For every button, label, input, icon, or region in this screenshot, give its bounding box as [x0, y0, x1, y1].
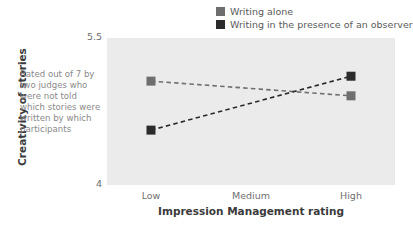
data-point-marker [347, 91, 356, 100]
x-axis-title: Impression Management rating [107, 205, 395, 217]
x-axis-tick-label-high: High [321, 190, 381, 201]
annotation-line: were not told [20, 91, 104, 102]
chart-legend: Writing alone Writing in the presence of… [216, 5, 405, 31]
annotation-line: written by which [20, 113, 104, 124]
series-line [151, 76, 351, 130]
legend-item-writing-alone[interactable]: Writing alone [216, 5, 405, 17]
annotation-line: two judges who [20, 80, 104, 91]
y-axis-tick-label-bottom: 4 [82, 178, 102, 189]
legend-swatch-writing-alone [216, 7, 225, 16]
legend-label-writing-alone: Writing alone [230, 6, 293, 17]
legend-label-writing-observer: Writing in the presence of an observer [230, 19, 413, 30]
chart-title [107, 0, 395, 1]
y-axis-tick-label-top: 5.5 [82, 31, 102, 42]
legend-item-writing-observer[interactable]: Writing in the presence of an observer [216, 18, 405, 30]
legend-swatch-writing-observer [216, 20, 225, 29]
annotation-line: which stories were [20, 102, 104, 113]
chart-annotation: Rated out of 7 by two judges who were no… [20, 69, 104, 136]
data-point-marker [147, 126, 156, 135]
x-axis-tick-label-low: Low [121, 190, 181, 201]
series-line [151, 81, 351, 96]
annotation-line: Rated out of 7 by [20, 69, 104, 80]
data-point-marker [147, 77, 156, 86]
plot-area [107, 38, 395, 185]
x-axis-tick-label-medium: Medium [221, 190, 281, 201]
annotation-line: participants [20, 124, 104, 135]
data-point-marker [347, 72, 356, 81]
plot-svg [107, 38, 395, 185]
